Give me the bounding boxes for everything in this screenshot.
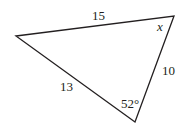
angle-label-bottom: 52° xyxy=(121,96,139,111)
triangle-figure: 15 13 10 x 52° xyxy=(0,0,187,134)
side-label-right: 10 xyxy=(162,63,175,78)
triangle-shape xyxy=(16,16,174,122)
side-label-left: 13 xyxy=(60,79,73,94)
side-label-top: 15 xyxy=(92,8,105,23)
triangle-diagram: 15 13 10 x 52° xyxy=(0,0,187,134)
angle-label-x: x xyxy=(156,19,163,34)
